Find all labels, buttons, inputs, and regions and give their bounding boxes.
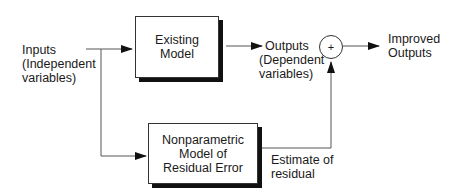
inputs-line1: Inputs [22, 43, 96, 57]
improved-line1: Improved [388, 32, 440, 46]
existing-model-box: Existing Model [135, 16, 219, 78]
plus-icon: + [328, 42, 334, 53]
improved-outputs-label: Improved Outputs [388, 32, 440, 60]
inputs-line2: (Independent [22, 57, 96, 71]
outputs-line2: (Dependent [259, 53, 324, 67]
estimate-label: Estimate of residual [271, 153, 334, 181]
estimate-line1: Estimate of [271, 153, 334, 167]
existing-model-line1: Existing [155, 33, 199, 47]
existing-model-line2: Model [155, 47, 199, 61]
estimate-line2: residual [271, 167, 334, 181]
improved-line2: Outputs [388, 46, 440, 60]
summing-junction: + [319, 35, 343, 59]
outputs-line3: variables) [259, 67, 324, 81]
nonparametric-line3: Residual Error [162, 161, 244, 175]
outputs-line1: Outputs [265, 39, 324, 53]
nonparametric-model-box: Nonparametric Model of Residual Error [148, 123, 258, 184]
outputs-label: Outputs (Dependent variables) [265, 39, 324, 81]
inputs-label: Inputs (Independent variables) [22, 43, 96, 85]
nonparametric-line1: Nonparametric [162, 133, 244, 147]
nonparametric-line2: Model of [162, 147, 244, 161]
inputs-line3: variables) [22, 71, 96, 85]
